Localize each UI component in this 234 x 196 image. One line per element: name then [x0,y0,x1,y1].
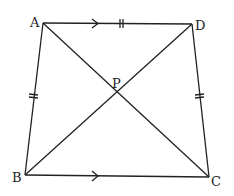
diagonal-ac [43,23,209,177]
segment-ab [25,23,43,175]
label-p: P [112,76,121,91]
label-d: D [195,18,205,33]
diagonal-bd [25,24,192,175]
label-a: A [29,15,40,30]
label-b: B [12,170,22,185]
equal-tick-icon-ab [29,94,38,98]
trapezoid-diagram: A D B C P [0,0,234,196]
segment-dc [192,24,209,177]
label-c: C [211,174,221,189]
segment-ad [43,23,192,24]
segment-bc [25,175,209,177]
